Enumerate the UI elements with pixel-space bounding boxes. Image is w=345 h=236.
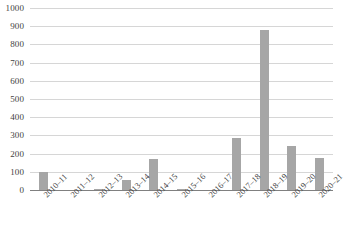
y-axis-tick-label: 500 bbox=[10, 95, 24, 104]
y-axis-tick-label: 1000 bbox=[6, 4, 24, 13]
x-tick-slot: 2010–11 bbox=[30, 191, 58, 236]
bar-slot bbox=[250, 8, 278, 190]
bar-series bbox=[30, 8, 333, 190]
bar-slot bbox=[58, 8, 86, 190]
bar-slot bbox=[168, 8, 196, 190]
x-axis-tick-labels: 2010–112011–122012–132013–142014–152015–… bbox=[30, 191, 333, 236]
y-axis-tick-label: 400 bbox=[10, 113, 24, 122]
x-tick-slot: 2012–13 bbox=[85, 191, 113, 236]
y-axis-tick-label: 700 bbox=[10, 58, 24, 67]
bar-slot bbox=[113, 8, 141, 190]
y-axis-tick-label: 100 bbox=[10, 167, 24, 176]
x-tick-slot: 2015–16 bbox=[168, 191, 196, 236]
y-axis-tick-label: 200 bbox=[10, 149, 24, 158]
bar-slot bbox=[85, 8, 113, 190]
x-tick-slot: 2017–18 bbox=[223, 191, 251, 236]
bar-slot bbox=[305, 8, 333, 190]
bar-slot bbox=[140, 8, 168, 190]
y-axis-tick-labels: 01002003004005006007008009001000 bbox=[0, 8, 27, 190]
x-tick-slot: 2016–17 bbox=[195, 191, 223, 236]
x-tick-slot: 2019–20 bbox=[278, 191, 306, 236]
bar[interactable] bbox=[260, 30, 269, 190]
y-axis-tick-label: 600 bbox=[10, 76, 24, 85]
bar-slot bbox=[278, 8, 306, 190]
bar-slot bbox=[30, 8, 58, 190]
y-axis-tick-label: 800 bbox=[10, 40, 24, 49]
bar[interactable] bbox=[232, 138, 241, 190]
x-tick-slot: 2014–15 bbox=[140, 191, 168, 236]
x-tick-slot: 2018–19 bbox=[250, 191, 278, 236]
plot-area bbox=[30, 8, 333, 190]
bar[interactable] bbox=[287, 146, 296, 190]
bar-slot bbox=[223, 8, 251, 190]
x-tick-slot: 2011–12 bbox=[58, 191, 86, 236]
y-axis-tick-label: 300 bbox=[10, 131, 24, 140]
x-tick-slot: 2020–21 bbox=[305, 191, 333, 236]
x-tick-slot: 2013–14 bbox=[113, 191, 141, 236]
y-axis-tick-label: 0 bbox=[19, 186, 24, 195]
bar-slot bbox=[195, 8, 223, 190]
y-axis-tick-label: 900 bbox=[10, 22, 24, 31]
